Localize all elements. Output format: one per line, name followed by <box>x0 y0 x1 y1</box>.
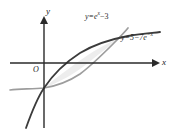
y-axis-label: y <box>46 7 50 16</box>
origin-label: O <box>33 66 39 74</box>
curve-5-minus-7exp-path <box>26 32 160 128</box>
curve-2-label-prefix: y=5−7e <box>121 33 147 42</box>
x-axis-arrow-icon <box>152 59 160 67</box>
curve-label-5-minus-7exp: y=5−7e−x <box>121 34 153 42</box>
curve-1-label-prefix: y=e <box>85 12 98 21</box>
math-graph-figure: y x O y=ex−3 y=5−7e−x <box>0 0 177 135</box>
curve-1-label-suffix: −3 <box>100 12 109 21</box>
y-axis-arrow-icon <box>40 16 48 24</box>
curve-label-exp-minus-3: y=ex−3 <box>85 13 108 21</box>
curve-exp-minus-3-path <box>10 28 128 90</box>
x-axis-label: x <box>162 58 166 67</box>
curve-2-label-exponent: −x <box>147 31 153 37</box>
